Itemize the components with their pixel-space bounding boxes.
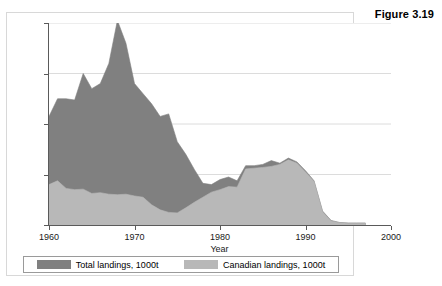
- x-tick-label: 1960: [29, 232, 69, 242]
- x-tick-label: 1970: [115, 232, 155, 242]
- chart-panel: 0200400600800 19601970198019902000 Year …: [6, 12, 354, 276]
- area-chart-svg: [49, 23, 391, 225]
- y-tick-mark: [44, 175, 48, 176]
- legend-entry[interactable]: Total landings, 1000t: [37, 260, 159, 270]
- x-tick-label: 1980: [200, 232, 240, 242]
- x-tick-mark: [220, 226, 221, 230]
- legend-swatch-icon: [37, 260, 71, 269]
- y-axis-line: [48, 23, 49, 226]
- x-tick-mark: [391, 226, 392, 230]
- legend-swatch-icon: [184, 260, 218, 269]
- legend-entry[interactable]: Canadian landings, 1000t: [184, 260, 325, 270]
- figure-caption: Figure 3.19: [375, 8, 434, 20]
- x-tick-mark: [135, 226, 136, 230]
- x-tick-mark: [49, 226, 50, 230]
- y-tick-mark: [44, 124, 48, 125]
- x-tick-mark: [306, 226, 307, 230]
- x-axis-title: Year: [48, 244, 391, 254]
- legend-label: Canadian landings, 1000t: [223, 260, 325, 270]
- chart-legend: Total landings, 1000tCanadian landings, …: [23, 256, 339, 273]
- x-tick-label: 1990: [286, 232, 326, 242]
- plot-area: [49, 23, 391, 225]
- x-tick-label: 2000: [371, 232, 411, 242]
- y-tick-mark: [44, 74, 48, 75]
- figure-container: Figure 3.19 0200400600800 19601970198019…: [0, 0, 442, 286]
- y-tick-mark: [44, 225, 48, 226]
- legend-label: Total landings, 1000t: [76, 260, 159, 270]
- y-tick-mark: [44, 23, 48, 24]
